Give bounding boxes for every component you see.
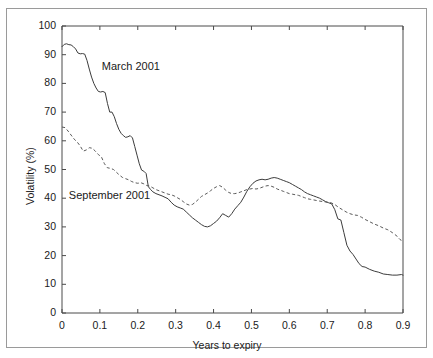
- x-tick-label: 0.3: [156, 319, 196, 331]
- y-tick-label: 90: [20, 48, 56, 60]
- y-axis-title: Volatility (%): [24, 147, 36, 205]
- y-tick-label: 100: [20, 19, 56, 31]
- y-tick-label: 20: [20, 249, 56, 261]
- x-tick-label: 0.9: [383, 319, 423, 331]
- y-tick-label: 10: [20, 277, 56, 289]
- x-tick-label: 0.7: [307, 319, 347, 331]
- figure-container: 0102030405060708090100 00.10.20.30.40.50…: [0, 0, 433, 358]
- x-tick-label: 0: [42, 319, 82, 331]
- plot-canvas: [0, 0, 433, 358]
- y-tick-label: 60: [20, 134, 56, 146]
- x-tick-label: 0.4: [194, 319, 234, 331]
- x-axis-title: Years to expiry: [193, 339, 262, 351]
- x-tick-label: 0.6: [269, 319, 309, 331]
- y-tick-label: 70: [20, 105, 56, 117]
- x-tick-label: 0.5: [231, 319, 271, 331]
- y-tick-label: 80: [20, 76, 56, 88]
- x-tick-label: 0.8: [345, 319, 385, 331]
- series-line-september-2001: [62, 127, 403, 241]
- series-label-march-2001: March 2001: [102, 60, 160, 72]
- series-label-september-2001: September 2001: [69, 189, 150, 201]
- y-tick-label: 0: [20, 306, 56, 318]
- y-tick-label: 30: [20, 220, 56, 232]
- x-tick-label: 0.1: [80, 319, 120, 331]
- series-line-march-2001: [62, 44, 403, 275]
- x-tick-label: 0.2: [118, 319, 158, 331]
